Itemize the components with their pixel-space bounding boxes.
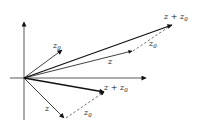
label-sum-lower: z + z0	[103, 83, 128, 93]
label-z-lower: z	[44, 104, 50, 113]
label-dashed-z0-lower: z0	[83, 108, 92, 118]
label-z-upper: z	[107, 57, 113, 66]
vector-diagram: z0 z z + z0 z0 z z + z0 z0	[0, 0, 198, 130]
z0-vector-upper	[24, 50, 62, 78]
label-z0-upper: z0	[52, 41, 61, 51]
z-vector-upper	[24, 51, 132, 78]
sum-vector-upper	[24, 25, 172, 78]
label-dashed-z0-upper: z0	[148, 39, 157, 49]
label-sum-upper: z + z0	[163, 12, 188, 22]
